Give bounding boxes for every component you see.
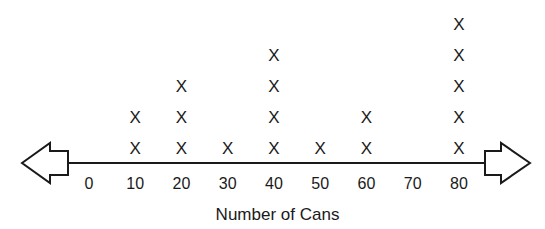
- x-mark: X: [264, 47, 284, 64]
- x-mark: X: [172, 140, 192, 157]
- x-mark: X: [357, 140, 377, 157]
- x-mark: X: [449, 16, 469, 33]
- tick-label: 30: [208, 176, 248, 192]
- right-arrow-icon: [485, 143, 530, 183]
- tick-label: 10: [115, 176, 155, 192]
- x-mark: X: [449, 140, 469, 157]
- x-axis-label: Number of Cans: [0, 205, 545, 225]
- x-mark: X: [310, 140, 330, 157]
- x-mark: X: [449, 47, 469, 64]
- tick-label: 80: [439, 176, 479, 192]
- x-mark: X: [125, 109, 145, 126]
- tick-label: 20: [162, 176, 202, 192]
- left-arrow-icon: [22, 143, 68, 183]
- x-mark: X: [449, 109, 469, 126]
- x-mark: X: [172, 78, 192, 95]
- line-plot: XXXXXXXXXXXXXXXXXX 01020304050607080 Num…: [0, 0, 545, 229]
- x-mark: X: [172, 109, 192, 126]
- x-mark: X: [264, 78, 284, 95]
- tick-label: 60: [347, 176, 387, 192]
- tick-label: 70: [393, 176, 433, 192]
- x-mark: X: [357, 109, 377, 126]
- tick-label: 40: [254, 176, 294, 192]
- x-mark: X: [264, 109, 284, 126]
- x-mark: X: [264, 140, 284, 157]
- x-mark: X: [125, 140, 145, 157]
- tick-label: 0: [69, 176, 109, 192]
- tick-label: 50: [300, 176, 340, 192]
- x-mark: X: [449, 78, 469, 95]
- x-mark: X: [218, 140, 238, 157]
